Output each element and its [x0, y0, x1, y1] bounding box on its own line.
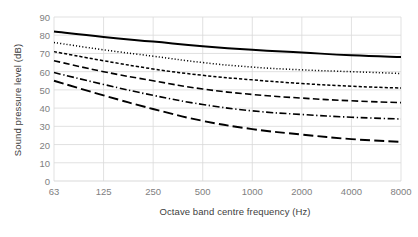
x-tick-label: 500	[195, 186, 211, 197]
y-tick-label: 50	[20, 84, 50, 95]
y-tick-label: 0	[20, 176, 50, 187]
x-tick-label: 250	[145, 186, 161, 197]
y-tick-label: 20	[20, 139, 50, 150]
x-tick-label: 125	[96, 186, 112, 197]
x-axis-title: Octave band centre frequency (Hz)	[55, 206, 415, 217]
y-tick-label: 60	[20, 66, 50, 77]
series-line-curve-5	[54, 73, 401, 119]
series-line-curve-3	[54, 52, 401, 88]
y-tick-label: 40	[20, 103, 50, 114]
x-tick-label: 63	[49, 186, 60, 197]
series-line-curve-4	[54, 61, 401, 103]
y-tick-label: 70	[20, 48, 50, 59]
y-tick-label: 90	[20, 12, 50, 23]
y-tick-label: 30	[20, 121, 50, 132]
x-tick-label: 1000	[242, 186, 263, 197]
x-tick-label: 8000	[390, 186, 411, 197]
y-tick-label: 80	[20, 30, 50, 41]
x-tick-label: 2000	[291, 186, 312, 197]
plot-canvas	[54, 17, 401, 181]
plot-area: 0102030405060708090 63125250500100020004…	[54, 17, 401, 181]
y-tick-label: 10	[20, 157, 50, 168]
x-tick-label: 4000	[341, 186, 362, 197]
noise-rating-curve-chart: Sound pressure level (dB) 01020304050607…	[0, 0, 418, 237]
